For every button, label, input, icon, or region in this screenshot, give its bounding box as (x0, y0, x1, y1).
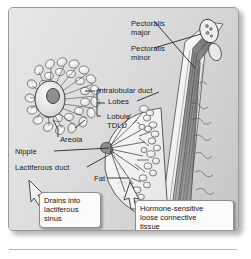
callout-connective-tissue: Hormone-sensitive loose connective tissu… (135, 200, 234, 231)
callout-lactiferous-sinus: Drains into lactiferous sinus (39, 192, 101, 228)
label-pectoralis-minor: Pectoralis minor (131, 44, 165, 62)
illustration-panel: Pectoralis major Pectoralis minor Intral… (8, 7, 239, 231)
label-lobes: Lobes (108, 97, 129, 106)
label-lactiferous-duct: Lactiferous duct (15, 163, 69, 172)
label-intralobular-duct: Intralobular duct (97, 86, 152, 95)
bottom-separator-rule (9, 249, 237, 250)
label-nipple: Nipple (15, 147, 37, 156)
label-fat: Fat (94, 174, 105, 183)
inset-nipple-shape (47, 89, 60, 104)
frontal-inset (24, 56, 101, 136)
chest-wall-group (159, 17, 224, 230)
label-pectoralis-major: Pectoralis major (131, 19, 165, 37)
label-lobule-tdlu: Lobule TDLU (107, 112, 130, 130)
label-areola: Areola (60, 135, 82, 144)
breast-anatomy-figure: Pectoralis major Pectoralis minor Intral… (0, 0, 251, 259)
